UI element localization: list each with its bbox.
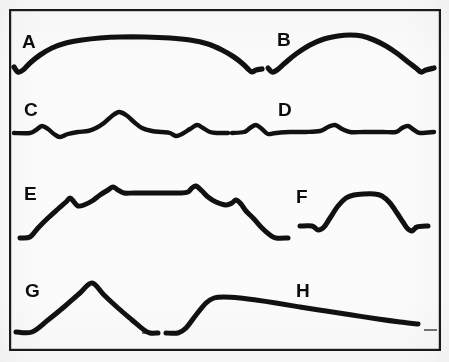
panel-label-b: B (277, 29, 291, 50)
panel-label-d: D (278, 99, 292, 120)
panel-label-g: G (25, 280, 40, 301)
panel-label-h: H (296, 280, 310, 301)
curve-h (166, 297, 418, 333)
curve-f (300, 194, 428, 231)
panel-label-a: A (22, 31, 36, 52)
curve-c (14, 112, 228, 137)
curve-a (14, 37, 262, 72)
panel-label-c: C (24, 99, 38, 120)
curve-d (232, 125, 434, 134)
curve-b (268, 35, 434, 72)
baseline-group (12, 132, 437, 333)
panel-label-e: E (24, 183, 37, 204)
figure-container: ABCDEFGH (0, 0, 449, 362)
curve-e (20, 186, 288, 238)
panel-label-f: F (296, 186, 308, 207)
curve-group (14, 35, 434, 333)
waveform-figure: ABCDEFGH (0, 0, 449, 362)
